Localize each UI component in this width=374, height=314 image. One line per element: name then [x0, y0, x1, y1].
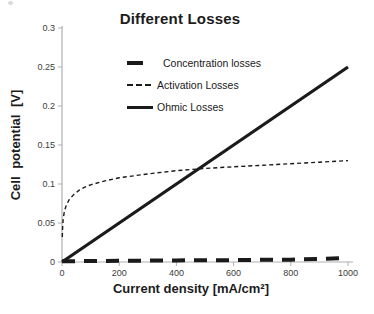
- legend-label: Concentration losses: [163, 57, 261, 69]
- legend-item-concentration: Concentration losses: [127, 52, 261, 74]
- y-tick-label: 0.25: [37, 62, 55, 72]
- ohmic-line-sample-icon: [127, 106, 153, 109]
- legend-label: Ohmic Losses: [157, 101, 224, 113]
- legend-label: Activation Losses: [157, 79, 239, 91]
- y-tick-label: 0.15: [37, 140, 55, 150]
- y-axis-label: Cell potential [V]: [8, 90, 23, 201]
- x-tick-label: 0: [59, 268, 64, 278]
- chart-canvas: 00.050.10.150.20.250.302004006008001000: [0, 0, 374, 314]
- chart-legend: Concentration losses Activation Losses O…: [127, 52, 261, 118]
- x-tick-label: 400: [169, 268, 184, 278]
- chart-figure: 00.050.10.150.20.250.302004006008001000 …: [0, 0, 374, 314]
- x-tick-label: 600: [226, 268, 241, 278]
- x-tick-label: 1000: [338, 268, 358, 278]
- y-tick-label: 0.3: [42, 23, 55, 33]
- y-tick-label: 0.05: [37, 218, 55, 228]
- chart-title: Different Losses: [60, 10, 300, 27]
- x-tick-label: 200: [112, 268, 127, 278]
- series-thick-dash: [62, 258, 348, 261]
- x-tick-label: 800: [283, 268, 298, 278]
- concentration-line-sample-icon: [127, 61, 153, 65]
- y-tick-label: 0.1: [42, 179, 55, 189]
- y-tick-label: 0: [50, 257, 55, 267]
- activation-line-sample-icon: [127, 84, 153, 86]
- x-axis-label: Current density [mA/cm²]: [66, 281, 316, 296]
- series-fine-dash: [62, 161, 348, 237]
- y-tick-label: 0.2: [42, 101, 55, 111]
- legend-item-ohmic: Ohmic Losses: [127, 96, 261, 118]
- legend-item-activation: Activation Losses: [127, 74, 261, 96]
